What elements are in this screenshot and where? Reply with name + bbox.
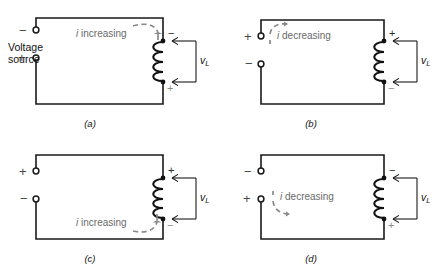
current-state-c: increasing: [78, 217, 126, 228]
coil-top-sign-c: +: [168, 165, 174, 176]
circuit-panel-a: − + Voltage source i increasing − + vL (…: [0, 0, 221, 134]
voltage-bracket-a: [172, 37, 196, 85]
coil-top-sign-d: −: [389, 165, 395, 176]
wire-top-d: [261, 155, 384, 177]
terminal-top-b: [258, 33, 264, 39]
terminal-top-c: [33, 168, 39, 174]
voltage-subscript-d: L: [426, 196, 430, 205]
coil-top-sign-a: −: [168, 28, 174, 39]
current-state-a: increasing: [78, 28, 126, 39]
inductor-coil-b: [374, 39, 386, 85]
circuit-schematic-b: [221, 0, 442, 134]
current-arrow-a: [133, 24, 162, 40]
circuit-schematic-c: [0, 134, 221, 269]
current-state-b: decreasing: [279, 30, 331, 41]
inductor-coil-a: [153, 39, 165, 85]
terminal-top-sign-d: −: [244, 165, 252, 178]
wire-bottom-b: [261, 64, 384, 104]
circuit-panel-c: + − i increasing + − vL (c): [0, 134, 221, 268]
figure-sheet: − + Voltage source i increasing − + vL (…: [0, 0, 442, 269]
terminal-top-sign-a: −: [19, 24, 27, 37]
panel-caption-d: (d): [291, 253, 331, 264]
voltage-bracket-d: [393, 174, 417, 222]
circuit-panel-d: − + i decreasing − + vL (d): [221, 134, 442, 268]
voltage-label-d: vL: [421, 192, 430, 203]
panel-caption-c: (c): [70, 253, 110, 264]
voltage-source-label-a: Voltage source: [8, 41, 43, 66]
current-arrow-c: [133, 214, 161, 232]
terminal-bottom-sign-b: −: [245, 57, 253, 70]
voltage-subscript-c: L: [205, 196, 209, 205]
inductor-coil-d: [374, 176, 386, 222]
current-label-a: i increasing: [76, 29, 127, 39]
terminal-top-sign-c: +: [19, 165, 27, 178]
panel-caption-a: (a): [70, 118, 110, 129]
coil-top-sign-b: +: [389, 28, 395, 39]
voltage-source-line2: source: [8, 53, 40, 65]
terminal-bottom-d: [258, 196, 264, 202]
voltage-label-c: vL: [200, 192, 209, 203]
terminal-top-a: [33, 27, 39, 33]
voltage-bracket-c: [172, 174, 196, 222]
current-label-d: i decreasing: [280, 192, 334, 202]
voltage-bracket-b: [393, 37, 417, 85]
coil-bottom-sign-a: +: [167, 83, 173, 94]
voltage-subscript-a: L: [205, 59, 209, 68]
coil-bottom-sign-d: +: [388, 220, 394, 231]
voltage-label-a: vL: [200, 55, 209, 66]
terminal-top-d: [258, 168, 264, 174]
circuit-panel-b: + − i decreasing + − vL (b): [221, 0, 442, 134]
terminal-bottom-b: [258, 61, 264, 67]
terminal-bottom-sign-d: +: [243, 192, 251, 205]
terminal-bottom-sign-c: −: [20, 192, 28, 205]
wire-bottom-d: [261, 199, 384, 239]
wire-bottom-a: [36, 58, 163, 104]
voltage-label-b: vL: [421, 55, 430, 66]
panel-caption-b: (b): [291, 118, 331, 129]
current-label-c: i increasing: [76, 218, 127, 228]
inductor-coil-c: [153, 176, 165, 222]
voltage-source-line1: Voltage: [8, 41, 43, 53]
circuit-schematic-a: [0, 0, 221, 134]
current-state-d: decreasing: [282, 191, 334, 202]
current-label-b: i decreasing: [277, 31, 331, 41]
voltage-subscript-b: L: [426, 59, 430, 68]
coil-bottom-sign-c: −: [167, 220, 173, 231]
wire-top-c: [36, 155, 163, 177]
terminal-top-sign-b: +: [244, 30, 252, 43]
terminal-bottom-c: [33, 196, 39, 202]
coil-bottom-sign-b: −: [388, 83, 394, 94]
